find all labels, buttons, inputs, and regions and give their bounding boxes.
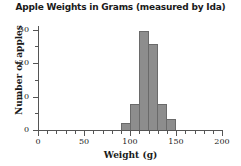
y-tick-minor xyxy=(35,80,38,81)
y-tick-label: 0 xyxy=(5,126,29,134)
x-tick-minor xyxy=(149,131,150,134)
x-tick-minor xyxy=(158,131,159,134)
x-tick-label: 150 xyxy=(161,138,191,146)
x-tick-minor xyxy=(75,131,76,134)
y-tick-major xyxy=(33,30,38,31)
x-tick-minor xyxy=(93,131,94,134)
x-tick-minor xyxy=(66,131,67,134)
plot-area: 0 10 20 30 0 50 100 150 200 xyxy=(0,0,241,166)
x-tick-major xyxy=(222,131,223,136)
y-tick-minor xyxy=(35,113,38,114)
x-tick-minor xyxy=(204,131,205,134)
x-tick-major xyxy=(176,131,177,136)
x-tick-minor xyxy=(195,131,196,134)
x-tick-minor xyxy=(185,131,186,134)
y-tick-major xyxy=(33,97,38,98)
x-tick-label: 200 xyxy=(207,138,237,146)
x-tick-minor xyxy=(47,131,48,134)
y-tick-major xyxy=(33,63,38,64)
apple-weights-histogram-figure: Apple Weights in Grams (measured by Ida)… xyxy=(0,0,241,166)
x-tick-label: 100 xyxy=(115,138,145,146)
x-tick-minor xyxy=(121,131,122,134)
x-axis-title: Weight (g) xyxy=(38,150,223,160)
y-tick-minor xyxy=(35,46,38,47)
x-tick-label: 0 xyxy=(23,138,53,146)
x-tick-minor xyxy=(103,131,104,134)
x-tick-major xyxy=(130,131,131,136)
x-tick-minor xyxy=(112,131,113,134)
x-tick-label: 50 xyxy=(69,138,99,146)
x-tick-minor xyxy=(139,131,140,134)
x-tick-minor xyxy=(56,131,57,134)
y-axis-title: Number of apples xyxy=(14,15,24,125)
y-axis-line xyxy=(38,26,39,131)
x-tick-minor xyxy=(167,131,168,134)
x-tick-major xyxy=(84,131,85,136)
x-tick-major xyxy=(38,131,39,136)
x-tick-minor xyxy=(213,131,214,134)
